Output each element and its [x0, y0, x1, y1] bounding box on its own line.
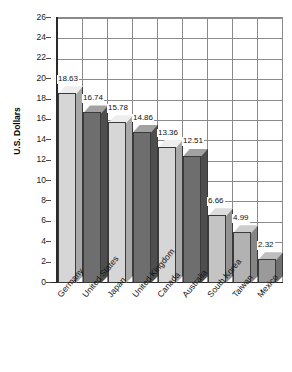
y-tick-label: 12 — [28, 155, 46, 164]
bar-front-face — [58, 93, 76, 283]
bar-front-face — [133, 132, 151, 283]
y-tick-mark — [46, 78, 51, 79]
y-tick-mark — [46, 241, 51, 242]
y-axis-title: U.S. Dollars — [12, 91, 22, 171]
y-tick-label: 22 — [28, 53, 46, 62]
y-tick-mark — [46, 262, 51, 263]
y-tick-label: 14 — [28, 135, 46, 144]
bar[interactable] — [58, 86, 83, 283]
y-tick-mark — [46, 160, 51, 161]
bar-side-face — [201, 149, 208, 284]
bar-front-face — [183, 156, 201, 284]
y-tick-mark — [46, 17, 51, 18]
y-tick-label: 8 — [28, 196, 46, 205]
x-axis-labels: GermanyUnited StatesJapanUnited KingdomC… — [0, 282, 292, 372]
y-tick-label: 24 — [28, 33, 46, 42]
bar-value-label: 4.99 — [232, 214, 250, 222]
y-tick-label: 26 — [28, 13, 46, 22]
bar[interactable] — [133, 125, 158, 283]
bar-value-label: 15.78 — [107, 104, 129, 112]
y-tick-mark — [46, 99, 51, 100]
y-tick-mark — [46, 221, 51, 222]
y-tick-mark — [46, 200, 51, 201]
y-tick-mark — [46, 119, 51, 120]
bar-chart: U.S. Dollars 26242220181614121086420 Ger… — [0, 0, 292, 372]
y-tick-label: 16 — [28, 114, 46, 123]
bar-front-face — [83, 112, 101, 283]
bar-value-label: 18.63 — [57, 75, 79, 83]
y-tick-label: 10 — [28, 176, 46, 185]
bar[interactable] — [183, 149, 208, 284]
bars-layer — [57, 17, 289, 283]
bar-value-label: 2.32 — [257, 241, 275, 249]
y-tick-label: 6 — [28, 216, 46, 225]
bar-value-label: 13.36 — [157, 129, 179, 137]
bar-value-label: 6.66 — [207, 197, 225, 205]
y-tick-label: 2 — [28, 257, 46, 266]
y-tick-mark — [46, 37, 51, 38]
bar[interactable] — [83, 105, 108, 283]
y-tick-label: 20 — [28, 74, 46, 83]
y-tick-mark — [46, 180, 51, 181]
y-tick-label: 18 — [28, 94, 46, 103]
bar-side-face — [126, 115, 133, 283]
bar-value-label: 14.86 — [132, 114, 154, 122]
bar-side-face — [76, 86, 83, 283]
bar-value-label: 16.74 — [82, 94, 104, 102]
y-tick-mark — [46, 139, 51, 140]
y-tick-label: 4 — [28, 237, 46, 246]
bar-side-face — [101, 105, 108, 283]
y-tick-mark — [46, 282, 51, 283]
bar-side-face — [176, 140, 183, 283]
y-tick-mark — [46, 58, 51, 59]
bar-value-label: 12.51 — [182, 137, 204, 145]
bar-side-face — [251, 225, 258, 283]
